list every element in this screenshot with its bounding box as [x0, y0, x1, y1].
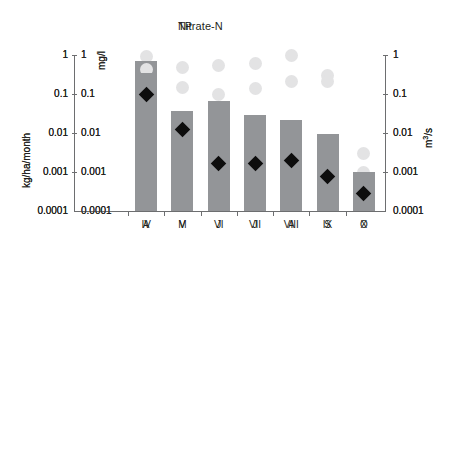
y-axis-label-right: 0.001	[393, 167, 449, 177]
unit-superscript: 3	[422, 136, 429, 140]
x-axis-label: O	[344, 220, 384, 230]
x-axis-label: M	[162, 220, 202, 230]
y-axis-label-secondary: 0.01	[81, 128, 137, 138]
x-axis-tick	[201, 211, 202, 216]
y-axis-tick-right	[383, 55, 388, 56]
x-axis-label: S	[308, 220, 348, 230]
x-axis-tick	[128, 211, 129, 216]
data-point-circle	[321, 75, 334, 88]
y-axis-label-secondary: 0.1	[81, 89, 137, 99]
y-axis-title-secondary: mg/l	[97, 51, 107, 70]
y-axis-tick-primary	[72, 133, 77, 134]
data-point-circle	[285, 75, 298, 88]
y-axis-title-primary: kg/ha/month	[22, 133, 32, 188]
y-axis-label-primary: 0.0001	[12, 206, 68, 216]
x-axis-tick	[346, 211, 347, 216]
x-axis-tick	[164, 211, 165, 216]
figure-two-panel-log-bar-chart: Nitrate-N1110.10.10.10.010.010.010.0010.…	[0, 0, 456, 475]
data-bar	[244, 137, 266, 211]
data-point-circle	[285, 49, 298, 62]
chart-title: TP	[178, 20, 192, 32]
y-axis-tick-primary	[72, 94, 77, 95]
y-axis-label-right: 0.1	[393, 89, 449, 99]
chart-panel-tp: TP1110.10.10.10.010.010.010.0010.0010.00…	[0, 238, 456, 475]
y-axis-label-secondary: 1	[81, 50, 137, 60]
y-axis-tick-right	[383, 133, 388, 134]
y-axis-label-secondary: 0.001	[81, 167, 137, 177]
y-axis-label-right: 0.0001	[393, 206, 449, 216]
data-point-circle	[249, 82, 262, 95]
x-axis-tick	[273, 211, 274, 216]
data-point-circle	[249, 57, 262, 70]
y-axis-tick-right	[383, 94, 388, 95]
y-axis-title-right: m3/s	[421, 128, 434, 148]
y-axis-label-right: 1	[393, 50, 449, 60]
data-point-circle	[176, 61, 189, 74]
data-point-circle	[212, 59, 225, 72]
y-axis-tick-primary	[72, 55, 77, 56]
x-axis-label: J	[199, 220, 239, 230]
x-axis-label: A	[126, 220, 166, 230]
y-axis-tick-primary	[72, 172, 77, 173]
y-axis-label-primary: 0.1	[12, 89, 68, 99]
x-axis-label: A	[271, 220, 311, 230]
y-axis-tick-right	[383, 172, 388, 173]
x-axis-label: J	[235, 220, 275, 230]
x-axis-tick	[309, 211, 310, 216]
y-axis-label-primary: 1	[12, 50, 68, 60]
x-axis-tick	[237, 211, 238, 216]
data-point-circle	[176, 81, 189, 94]
data-bar	[280, 134, 302, 211]
